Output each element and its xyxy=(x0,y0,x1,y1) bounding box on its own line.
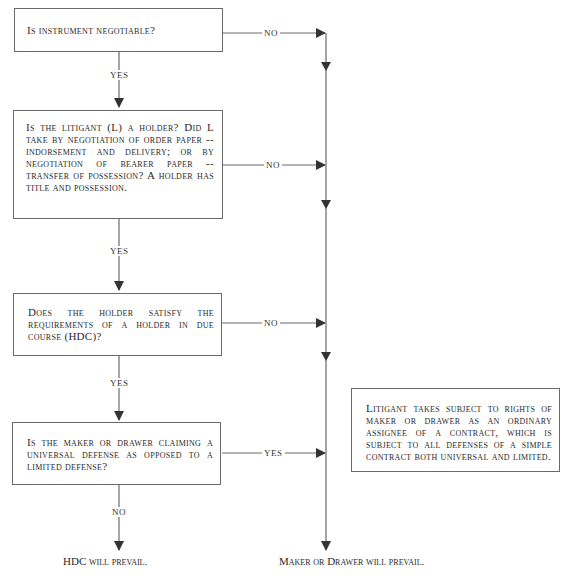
outcome-hdc-prevails: HDC will prevail. xyxy=(63,555,147,567)
decision-text-hdc: Does the holder satisfy the requirements… xyxy=(28,306,214,342)
result-box-assignee: Litigant takes subject to rights of make… xyxy=(351,388,560,472)
decision-box-negotiable: Is instrument negotiable? xyxy=(14,8,223,52)
edge-label-q2-no: NO xyxy=(264,160,282,170)
decision-box-hdc: Does the holder satisfy the requirements… xyxy=(13,293,222,356)
connector-lines xyxy=(0,0,566,578)
edge-label-q3-no: NO xyxy=(262,318,280,328)
edge-label-q2-yes: YES xyxy=(108,246,131,256)
edge-label-q1-no: NO xyxy=(262,28,280,38)
decision-text-negotiable: Is instrument negotiable? xyxy=(27,24,217,36)
edge-label-q1-yes: YES xyxy=(108,70,131,80)
decision-text-defense: Is the maker or drawer claiming a univer… xyxy=(27,436,213,472)
edge-label-q4-no: NO xyxy=(110,507,128,517)
decision-box-defense: Is the maker or drawer claiming a univer… xyxy=(12,422,221,485)
decision-text-holder: Is the litigant (L) a holder? Did L take… xyxy=(26,121,214,193)
outcome-maker-prevails: Maker or Drawer will prevail. xyxy=(279,555,424,567)
edge-label-q3-yes: YES xyxy=(108,378,131,388)
decision-box-holder: Is the litigant (L) a holder? Did L take… xyxy=(13,110,223,219)
result-text-assignee: Litigant takes subject to rights of make… xyxy=(366,402,552,462)
edge-label-q4-yes: YES xyxy=(262,448,285,458)
